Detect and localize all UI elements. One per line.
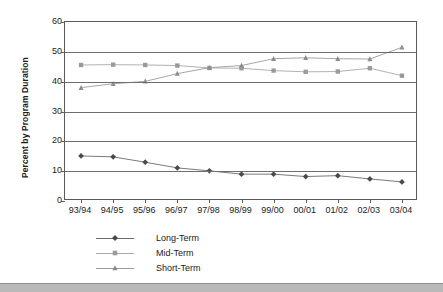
- legend-item-short-term[interactable]: Short-Term: [96, 261, 256, 276]
- y-axis-title: Percent by Program Duration: [18, 48, 32, 188]
- page-footer-band: [0, 283, 443, 292]
- legend-swatch: [96, 231, 134, 246]
- chart-figure: Percent by Program Duration 010203040506…: [0, 0, 443, 292]
- y-tick-label: 0: [40, 195, 62, 205]
- y-tick-label: 50: [40, 46, 62, 56]
- legend-label: Short-Term: [134, 263, 201, 274]
- legend-item-long-term[interactable]: Long-Term: [96, 231, 256, 246]
- legend-label: Mid-Term: [134, 248, 194, 259]
- triangle-marker-icon: [108, 261, 122, 275]
- y-tick-label: 10: [40, 165, 62, 175]
- y-tick-label: 30: [40, 106, 62, 116]
- x-tick-label: 03/04: [379, 205, 423, 215]
- legend-item-mid-term[interactable]: Mid-Term: [96, 246, 256, 261]
- legend-swatch: [96, 261, 134, 276]
- legend-label: Long-Term: [134, 233, 199, 244]
- chart-legend: Long-TermMid-TermShort-Term: [96, 231, 256, 276]
- y-tick-label: 60: [40, 16, 62, 26]
- diamond-marker-icon: [108, 231, 122, 245]
- square-marker-icon: [108, 246, 122, 260]
- y-tick-label: 40: [40, 76, 62, 86]
- y-axis-tick-labels: 0102030405060: [36, 0, 62, 292]
- y-tick-label: 20: [40, 135, 62, 145]
- legend-swatch: [96, 246, 134, 261]
